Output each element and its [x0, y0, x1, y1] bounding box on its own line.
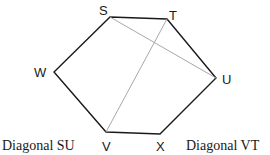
vertex-label-v: V	[102, 139, 111, 154]
vertex-label-t: T	[169, 8, 177, 23]
hexagon-diagram: S T U X V W Diagonal SU Diagonal VT	[0, 0, 270, 155]
hexagon-outline	[54, 17, 216, 134]
caption-diagonal-vt: Diagonal VT	[186, 138, 260, 153]
vertex-label-w: W	[34, 65, 47, 80]
diagonal-vt	[106, 19, 167, 132]
vertex-label-x: X	[156, 139, 165, 154]
vertex-label-s: S	[99, 3, 108, 18]
caption-diagonal-su: Diagonal SU	[2, 138, 75, 153]
vertex-label-u: U	[222, 72, 231, 87]
